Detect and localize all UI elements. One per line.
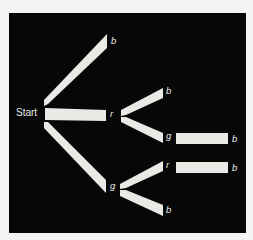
node-b-level1-label: b (111, 36, 116, 46)
node-r-level1-label: r (110, 109, 113, 119)
node-rgb-label: b (232, 134, 237, 144)
node-gr-label: r (166, 160, 169, 170)
tree-diagram (0, 0, 253, 240)
branch-rg-to-b (176, 133, 228, 144)
branch-start-to-r (45, 108, 106, 121)
node-grb-label: b (232, 163, 237, 173)
node-rb-label: b (166, 86, 171, 96)
node-gb-label: b (166, 205, 171, 215)
node-g-level1-label: g (110, 181, 115, 191)
node-start-label: Start (16, 108, 37, 118)
branch-gr-to-b (176, 162, 228, 173)
node-rg-label: g (166, 131, 171, 141)
